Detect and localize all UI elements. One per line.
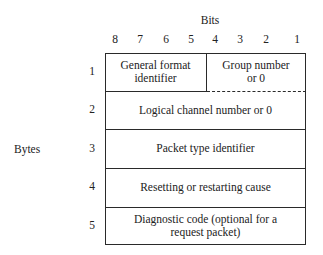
bytes-axis-title: Bytes xyxy=(14,143,40,155)
bit-number-6: 6 xyxy=(159,33,173,45)
field-general-format-identifier: General format identifier xyxy=(105,53,206,91)
bit-number-2: 2 xyxy=(259,33,273,45)
field-group-number: Group number or 0 xyxy=(206,53,306,91)
field-diagnostic-code-line1: Diagnostic code (optional for a xyxy=(134,213,277,226)
byte-number-1: 1 xyxy=(85,65,99,77)
bit-number-3: 3 xyxy=(233,33,247,45)
field-general-format-identifier-line1: General format xyxy=(121,59,191,72)
byte-number-4: 4 xyxy=(85,180,99,192)
field-general-format-identifier-line2: identifier xyxy=(134,72,176,85)
field-diagnostic-code-line2: request packet) xyxy=(171,226,241,239)
bits-axis-title: Bits xyxy=(195,14,225,26)
field-logical-channel-number: Logical channel number or 0 xyxy=(105,91,306,129)
byte-number-2: 2 xyxy=(85,103,99,115)
field-resetting-cause: Resetting or restarting cause xyxy=(105,168,306,207)
bit-number-1: 1 xyxy=(290,33,304,45)
bit-number-7: 7 xyxy=(133,33,147,45)
byte-number-5: 5 xyxy=(85,219,99,231)
bit-number-4: 4 xyxy=(208,33,222,45)
field-group-number-line2: or 0 xyxy=(247,72,265,85)
field-diagnostic-code: Diagnostic code (optional for a request … xyxy=(105,207,306,245)
field-group-number-line1: Group number xyxy=(222,59,289,72)
field-packet-type-identifier: Packet type identifier xyxy=(105,129,306,168)
byte-number-3: 3 xyxy=(85,142,99,154)
bit-number-8: 8 xyxy=(108,33,122,45)
bit-number-5: 5 xyxy=(184,33,198,45)
